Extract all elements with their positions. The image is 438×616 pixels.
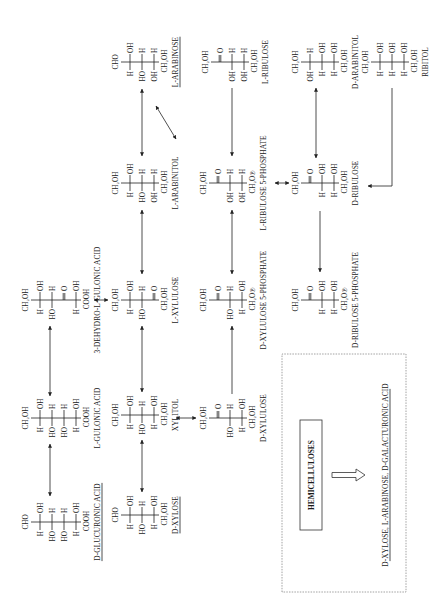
- keto-oxygen: O: [307, 286, 315, 291]
- left-substituent: HO: [61, 427, 69, 437]
- bottom-group: CH₂O℗: [249, 170, 257, 194]
- right-substituent: OH: [389, 43, 397, 53]
- bottom-group: COOH: [83, 289, 91, 309]
- left-substituent: H: [73, 531, 81, 536]
- compound-name-label: D-ARABINITOL: [351, 35, 360, 89]
- top-group: CH₂OH: [112, 404, 120, 427]
- top-group: CH₂OH: [200, 289, 208, 312]
- left-substituent: HO: [139, 424, 147, 434]
- compound-name-label: L-ARABINITOL: [171, 156, 180, 210]
- compound-l-arabinose: CHOHOHHOHOHHCH₂OHL-ARABINOSE: [112, 36, 180, 87]
- bottom-group: CH₂OH: [411, 50, 419, 73]
- right-substituent: H: [139, 501, 147, 506]
- compound-name-label: XYLITOL: [171, 398, 180, 431]
- right-substituent: H: [139, 286, 147, 291]
- left-substituent: HO: [49, 531, 57, 541]
- right-substituent: OH: [401, 43, 409, 53]
- arrow-ribitol-to-d-ribulose: [368, 88, 392, 186]
- compound-d-ribulose-5-phosphate: CH₂OHOHOHHOHCH₂O℗D-RIBULOSE 5-PHOSPHATE: [292, 252, 360, 348]
- right-substituent: OH: [151, 396, 159, 406]
- left-substituent: H: [331, 192, 339, 197]
- left-substituent: H: [73, 309, 81, 314]
- compound-d-arabinitol: CH₂OHOHHHOHHOHCH₂OHD-ARABINITOL: [292, 35, 360, 89]
- top-group: CH₂OH: [292, 51, 300, 74]
- right-substituent: H: [229, 48, 237, 53]
- right-substituent: OH: [37, 503, 45, 513]
- left-substituent: H: [37, 427, 45, 432]
- left-substituent: H: [319, 71, 327, 76]
- compound-d-ribulose: CH₂OHOHOHHOHCH₂OHD-RIBULOSE: [292, 160, 360, 205]
- bottom-group: CH₂OH: [341, 50, 349, 73]
- bottom-group: COOH: [83, 511, 91, 531]
- compound-l-xylulose: CH₂OHHOHHOHOCH₂OHL-XYLULOSE: [112, 276, 180, 323]
- left-substituent: HO: [139, 309, 147, 319]
- left-substituent: H: [239, 309, 247, 314]
- right-substituent: H: [307, 48, 315, 53]
- bottom-group: CH₂OH: [161, 503, 169, 526]
- left-substituent: H: [331, 309, 339, 314]
- left-substituent: H: [127, 309, 135, 314]
- right-substituent: OH: [127, 281, 135, 291]
- left-substituent: OH: [239, 192, 247, 202]
- left-substituent: H: [127, 424, 135, 429]
- right-substituent: H: [49, 404, 57, 409]
- hemicellulose-pentose-pathway-diagram: CHOHOHHOHHOHHOHCOOHD-GLUCURONIC ACIDCHOH…: [0, 0, 438, 616]
- right-substituent: OH: [127, 496, 135, 506]
- hollow-down-arrow-icon: [332, 469, 365, 481]
- compound-name-label: D-XYLOSE: [171, 496, 180, 534]
- compound-d-xylulose: CH₂OHOHOHHOHCH₂OHD-XYLULOSE: [200, 394, 268, 442]
- compound-structures: CHOHOHHOHHOHHOHCOOHD-GLUCURONIC ACIDCHOH…: [22, 35, 430, 561]
- bottom-group: CH₂OH: [161, 288, 169, 311]
- left-substituent: H: [37, 309, 45, 314]
- bottom-group: COOH: [83, 407, 91, 427]
- bottom-group: CH₂O℗: [249, 287, 257, 311]
- top-group: CH₂OH: [202, 51, 210, 74]
- bottom-group: CH₂OH: [161, 403, 169, 426]
- top-group: CH₂OH: [22, 407, 30, 430]
- right-substituent: H: [139, 48, 147, 53]
- compound-l-ribulose: CH₂OHOOHHOHHCH₂OHL-RIBULOSE: [202, 40, 270, 84]
- right-substituent: OH: [73, 399, 81, 409]
- top-group: CH₂OH: [292, 289, 300, 312]
- right-substituent: OH: [377, 43, 385, 53]
- left-substituent: HO: [227, 309, 235, 319]
- left-substituent: H: [151, 424, 159, 429]
- compound-name-label: D-GLUCURONIC ACID: [93, 483, 102, 561]
- left-substituent: H: [127, 71, 135, 76]
- left-substituent: OH: [151, 71, 159, 81]
- keto-oxygen: O: [217, 48, 225, 53]
- top-group: CH₂OH: [22, 289, 30, 312]
- keto-oxygen: O: [61, 286, 69, 291]
- top-group: CHO: [112, 54, 120, 69]
- compound-name-label: L-ARABINOSE: [171, 36, 180, 87]
- products-label: D-XYLOSE, L-ARABINOSE, D-GALACTURONIC AC…: [381, 383, 390, 567]
- bottom-group: CH₂OH: [161, 171, 169, 194]
- left-substituent: OH: [151, 192, 159, 202]
- left-substituent: HO: [49, 427, 57, 437]
- right-substituent: H: [227, 404, 235, 409]
- left-substituent: OH: [307, 71, 315, 81]
- left-substituent: H: [239, 427, 247, 432]
- left-substituent: H: [73, 427, 81, 432]
- keto-oxygen: O: [215, 404, 223, 409]
- top-group: CH₂OH: [112, 289, 120, 312]
- right-substituent: OH: [239, 281, 247, 291]
- right-substituent: H: [139, 169, 147, 174]
- left-substituent: H: [37, 531, 45, 536]
- compound-ribitol: CH₂OHHOHHOHHOHCH₂OHRIBITOL: [362, 43, 430, 77]
- right-substituent: OH: [151, 496, 159, 506]
- right-substituent: H: [61, 404, 69, 409]
- bottom-group: CH₂OH: [251, 50, 259, 73]
- right-substituent: H: [151, 169, 159, 174]
- left-substituent: HO: [139, 71, 147, 81]
- right-substituent: OH: [319, 43, 327, 53]
- bottom-group: CH₂OH: [341, 171, 349, 194]
- right-substituent: H: [151, 48, 159, 53]
- compound-name-label: D-XYLULOSE: [259, 394, 268, 442]
- compound-name-label: D-RIBULOSE: [351, 160, 360, 205]
- left-substituent: OH: [241, 71, 249, 81]
- compound-d-xylose: CHOHOHHOHHOHCH₂OHD-XYLOSE: [112, 496, 180, 535]
- bottom-group: CH₂OH: [161, 50, 169, 73]
- left-substituent: H: [319, 192, 327, 197]
- right-substituent: OH: [331, 164, 339, 174]
